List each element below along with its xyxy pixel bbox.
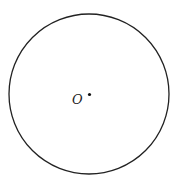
geometry-diagram: O (0, 0, 178, 186)
center-label: O (72, 92, 83, 107)
center-point (88, 93, 91, 96)
